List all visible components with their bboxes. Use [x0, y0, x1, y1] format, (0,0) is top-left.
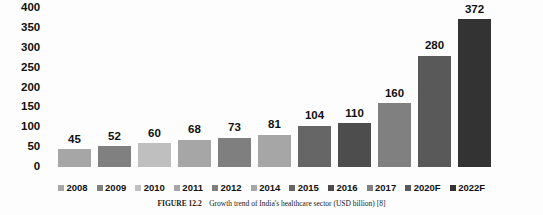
bar-2011[interactable]: 68	[178, 118, 211, 167]
chart-legend: 2008200920102011201220142015201620172020…	[0, 181, 543, 195]
y-axis-tick-50: 50	[0, 141, 40, 153]
bar-2016[interactable]: 110	[338, 101, 371, 167]
chart-plot-area: 400350300250200150100500 455260687381104…	[0, 0, 543, 175]
bar-rect[interactable]	[98, 146, 131, 167]
bar-rect[interactable]	[138, 143, 171, 167]
figure-caption-body: Growth trend of India's healthcare secto…	[209, 199, 385, 208]
bar-rect[interactable]	[458, 19, 491, 167]
legend-swatch-icon	[328, 185, 334, 191]
bar-rect[interactable]	[58, 149, 91, 167]
bar-rect[interactable]	[418, 56, 451, 167]
bar-2017[interactable]: 160	[378, 81, 411, 167]
legend-swatch-icon	[174, 185, 180, 191]
legend-swatch-icon	[212, 185, 218, 191]
bar-2008[interactable]: 45	[58, 127, 91, 167]
legend-label: 2020F	[414, 183, 441, 193]
legend-swatch-icon	[251, 185, 257, 191]
bar-value-label: 52	[92, 131, 137, 143]
legend-label: 2011	[182, 183, 203, 193]
y-axis-tick-150: 150	[0, 101, 40, 113]
legend-swatch-icon	[405, 185, 411, 191]
y-axis-tick-300: 300	[0, 42, 40, 54]
legend-swatch-icon	[97, 185, 103, 191]
bar-2020F[interactable]: 280	[418, 34, 451, 167]
legend-swatch-icon	[58, 185, 64, 191]
bar-rect[interactable]	[378, 103, 411, 167]
bar-value-label: 60	[132, 128, 177, 140]
bar-series: 455260687381104110160280372	[58, 0, 543, 175]
y-axis-tick-200: 200	[0, 82, 40, 94]
legend-label: 2009	[105, 183, 126, 193]
legend-item-2010[interactable]: 2010	[135, 183, 165, 193]
legend-label: 2014	[259, 183, 280, 193]
legend-item-2011[interactable]: 2011	[174, 183, 203, 193]
legend-item-2022F[interactable]: 2022F	[450, 183, 485, 193]
y-axis: 400350300250200150100500	[0, 0, 46, 175]
bar-rect[interactable]	[218, 138, 251, 167]
bar-value-label: 73	[212, 122, 257, 134]
figure-caption-label: FIGURE 12.2	[158, 199, 202, 208]
legend-item-2017[interactable]: 2017	[367, 183, 397, 193]
legend-label: 2015	[298, 183, 319, 193]
legend-item-2020F[interactable]: 2020F	[405, 183, 440, 193]
bar-2014[interactable]: 81	[258, 113, 291, 167]
bar-2009[interactable]: 52	[98, 124, 131, 167]
legend-item-2014[interactable]: 2014	[251, 183, 281, 193]
bar-value-label: 68	[172, 124, 217, 136]
bar-rect[interactable]	[178, 140, 211, 167]
bar-2012[interactable]: 73	[218, 116, 251, 167]
legend-label: 2012	[220, 183, 241, 193]
figure-chart: 400350300250200150100500 455260687381104…	[0, 0, 543, 215]
bar-value-label: 110	[332, 108, 377, 120]
y-axis-tick-100: 100	[0, 121, 40, 133]
legend-label: 2017	[375, 183, 396, 193]
legend-label: 2008	[66, 183, 87, 193]
legend-swatch-icon	[135, 185, 141, 191]
bar-2010[interactable]: 60	[138, 121, 171, 167]
bar-rect[interactable]	[338, 123, 371, 167]
figure-caption: FIGURE 12.2 Growth trend of India's heal…	[0, 200, 543, 209]
legend-swatch-icon	[450, 185, 456, 191]
legend-item-2016[interactable]: 2016	[328, 183, 358, 193]
bar-2022F[interactable]: 372	[458, 0, 491, 167]
legend-label: 2010	[144, 183, 165, 193]
legend-label: 2016	[336, 183, 357, 193]
bar-value-label: 104	[292, 110, 337, 122]
legend-label: 2022F	[458, 183, 485, 193]
y-axis-tick-0: 0	[0, 161, 40, 173]
legend-item-2009[interactable]: 2009	[97, 183, 127, 193]
legend-swatch-icon	[289, 185, 295, 191]
legend-item-2015[interactable]: 2015	[289, 183, 319, 193]
y-axis-tick-250: 250	[0, 62, 40, 74]
y-axis-tick-350: 350	[0, 22, 40, 34]
bar-value-label: 160	[372, 88, 417, 100]
legend-item-2008[interactable]: 2008	[58, 183, 88, 193]
bar-rect[interactable]	[258, 135, 291, 167]
bar-value-label: 372	[452, 4, 497, 16]
bar-value-label: 81	[252, 119, 297, 131]
bar-value-label: 280	[412, 40, 457, 52]
bar-2015[interactable]: 104	[298, 104, 331, 167]
legend-swatch-icon	[367, 185, 373, 191]
bar-value-label: 45	[52, 134, 97, 146]
y-axis-tick-400: 400	[0, 2, 40, 14]
bar-rect[interactable]	[298, 126, 331, 167]
legend-item-2012[interactable]: 2012	[212, 183, 242, 193]
